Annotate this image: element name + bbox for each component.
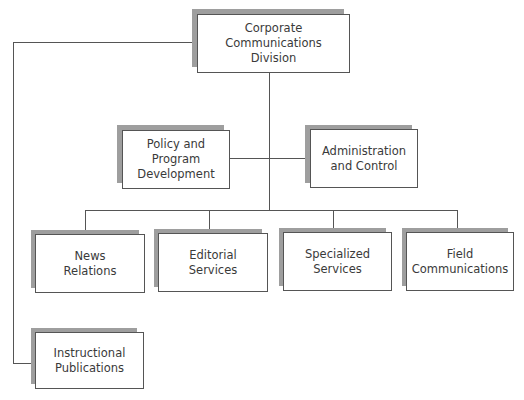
node-label: Administration and Control bbox=[322, 144, 406, 174]
node-label: Instructional Publications bbox=[54, 346, 126, 376]
connector-bottom-horizontal bbox=[85, 210, 457, 211]
node-label: Editorial Services bbox=[189, 248, 238, 278]
node-label: News Relations bbox=[64, 249, 117, 279]
node-label: Field Communications bbox=[412, 247, 509, 277]
connector-left-vertical bbox=[13, 42, 14, 364]
node-label: Specialized Services bbox=[305, 247, 370, 277]
connector-left-horizontal bbox=[13, 42, 197, 43]
connector-staff-horizontal bbox=[229, 158, 310, 159]
node-label: Corporate Communications Division bbox=[200, 21, 347, 66]
node-label: Policy and Program Development bbox=[137, 137, 214, 182]
connector-main-vertical bbox=[269, 72, 270, 210]
